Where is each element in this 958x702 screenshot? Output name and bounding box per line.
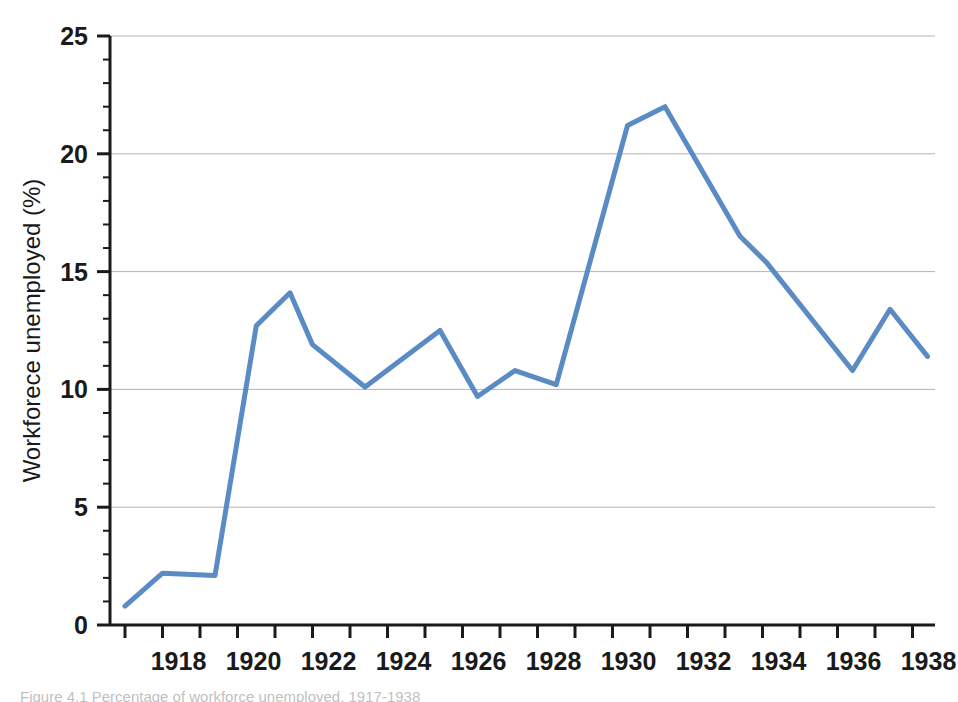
data-series-line — [125, 107, 928, 606]
y-tick-label-20: 20 — [60, 140, 88, 168]
y-tick-label-10: 10 — [60, 375, 88, 403]
x-tick-label-1934: 1934 — [751, 647, 807, 675]
x-tick-label-1930: 1930 — [601, 647, 657, 675]
x-tick-label-1928: 1928 — [526, 647, 582, 675]
x-tick-label-1926: 1926 — [451, 647, 507, 675]
gridlines-group — [110, 36, 935, 507]
y-tick-label-25: 25 — [60, 22, 88, 50]
x-axis-ticks-group — [125, 625, 913, 638]
x-tick-label-1938: 1938 — [901, 647, 957, 675]
figure-caption: Figure 4.1 Percentage of workforce unemp… — [20, 688, 720, 702]
y-axis-title: Workforece unemployed (%) — [18, 179, 45, 483]
line-chart: 0510152025 19181920192219241926192819301… — [0, 0, 958, 702]
x-tick-label-1922: 1922 — [301, 647, 357, 675]
x-tick-label-1918: 1918 — [151, 647, 207, 675]
x-tick-label-1936: 1936 — [826, 647, 882, 675]
y-tick-label-5: 5 — [74, 493, 88, 521]
y-axis-ticks-group — [97, 36, 110, 625]
y-tick-label-0: 0 — [74, 611, 88, 639]
x-tick-label-1924: 1924 — [376, 647, 432, 675]
y-axis-tick-labels: 0510152025 — [60, 22, 88, 639]
x-tick-label-1932: 1932 — [676, 647, 732, 675]
figure-container: 0510152025 19181920192219241926192819301… — [0, 0, 958, 702]
y-tick-label-15: 15 — [60, 258, 88, 286]
x-axis-tick-labels: 1918192019221924192619281930193219341936… — [151, 647, 957, 675]
x-tick-label-1920: 1920 — [226, 647, 282, 675]
